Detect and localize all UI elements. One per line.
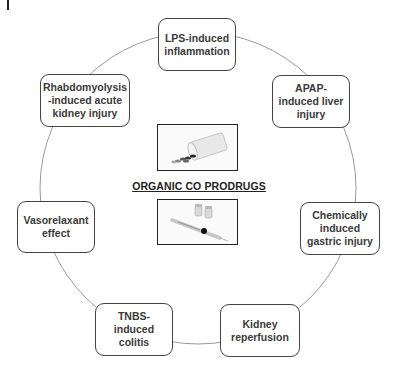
node-kidney-reperfusion: Kidney reperfusion: [220, 304, 300, 357]
node-lps-inflammation: LPS-induced inflammation: [158, 18, 236, 71]
node-label: LPS-induced inflammation: [164, 32, 229, 58]
node-label: TNBS- induced colitis: [99, 310, 169, 349]
node-label: Rhabdomyolysis -induced acute kidney inj…: [43, 81, 127, 120]
node-label: Vasorelaxant effect: [24, 214, 89, 240]
node-gastric-injury: Chemically induced gastric injury: [300, 202, 380, 255]
pill-bottle-image: [157, 124, 238, 171]
node-apap-liver-injury: APAP- induced liver injury: [272, 75, 350, 128]
center-title: ORGANIC CO PRODRUGS: [113, 180, 285, 192]
node-tnbs-colitis: TNBS- induced colitis: [95, 303, 173, 356]
node-label: Chemically induced gastric injury: [307, 209, 373, 248]
node-label: APAP- induced liver injury: [279, 82, 344, 121]
node-vasorelaxant-effect: Vasorelaxant effect: [17, 201, 95, 253]
node-label: Kidney reperfusion: [231, 318, 289, 344]
node-rhabdomyolysis-aki: Rhabdomyolysis -induced acute kidney inj…: [40, 74, 130, 127]
syringe-vials-image: [157, 199, 238, 245]
